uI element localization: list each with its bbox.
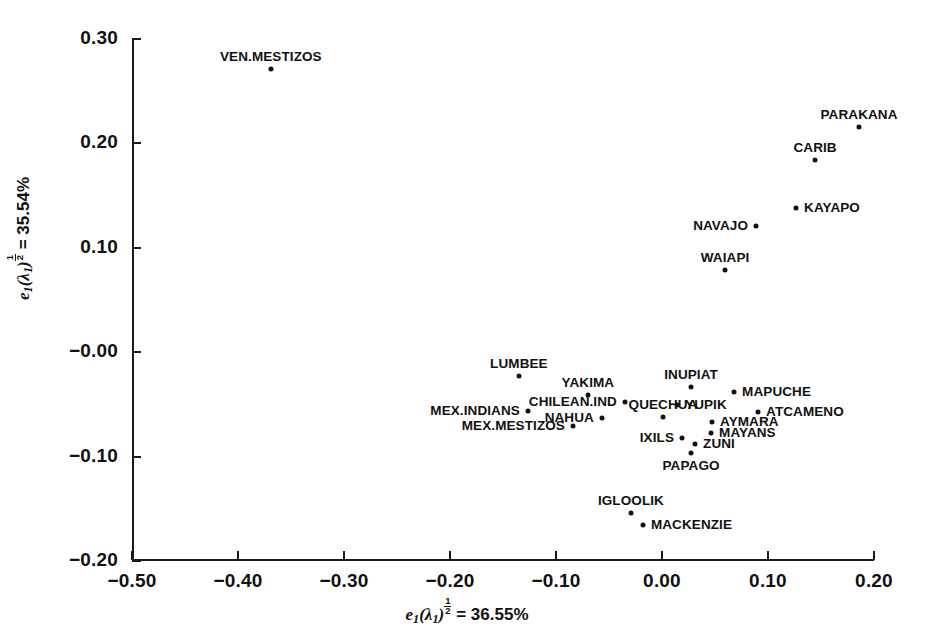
y-tick-mark — [132, 247, 141, 249]
x-tick-mark — [449, 551, 451, 560]
y-tick-mark — [132, 456, 141, 458]
x-tick-label: −0.50 — [107, 570, 156, 592]
data-point[interactable] — [813, 158, 818, 163]
x-tick-label: 0.20 — [855, 570, 893, 592]
data-point-label: VEN.MESTIZOS — [220, 50, 322, 64]
data-point[interactable] — [268, 67, 273, 72]
data-point[interactable] — [710, 420, 715, 425]
data-point[interactable] — [693, 442, 698, 447]
data-point-label: YAKIMA — [562, 376, 615, 390]
x-tick-mark — [661, 551, 663, 560]
y-tick-label: 0.20 — [80, 131, 118, 153]
data-point-label: ZUNI — [703, 437, 735, 451]
data-point[interactable] — [723, 267, 728, 272]
data-point[interactable] — [754, 223, 759, 228]
data-point[interactable] — [525, 409, 530, 414]
data-point[interactable] — [599, 416, 604, 421]
data-point[interactable] — [640, 522, 645, 527]
x-tick-label: −0.30 — [319, 570, 368, 592]
data-point-label: IGLOOLIK — [598, 493, 664, 507]
data-point-label: LUMBEE — [490, 357, 548, 371]
data-point-label: PARAKANA — [821, 108, 898, 122]
data-point-label: MEX.INDIANS — [430, 404, 520, 418]
data-point-label: WAIAPI — [701, 250, 750, 264]
y-tick-label: 0.10 — [80, 236, 118, 258]
x-axis-percent: = 36.55% — [456, 605, 528, 624]
data-point[interactable] — [689, 450, 694, 455]
x-tick-label: −0.10 — [531, 570, 580, 592]
data-point-label: MACKENZIE — [651, 518, 732, 532]
x-tick-mark — [873, 551, 875, 560]
x-tick-mark — [767, 551, 769, 560]
data-point[interactable] — [709, 431, 714, 436]
y-tick-mark — [132, 142, 141, 144]
data-point-label: IXILS — [640, 431, 674, 445]
data-point[interactable] — [794, 205, 799, 210]
x-tick-label: −0.20 — [425, 570, 474, 592]
x-tick-label: 0.00 — [643, 570, 681, 592]
data-point-label: QUECHUA — [629, 398, 698, 412]
x-tick-mark — [555, 551, 557, 560]
data-point-label: NAVAJO — [693, 219, 748, 233]
x-tick-mark — [343, 551, 345, 560]
x-tick-mark — [131, 551, 133, 560]
data-point-label: CARIB — [793, 141, 836, 155]
y-tick-mark — [132, 38, 141, 40]
y-tick-label: −0.20 — [69, 549, 118, 571]
x-axis-title: e1(λ1)12 = 36.55% — [0, 597, 934, 627]
data-point[interactable] — [628, 510, 633, 515]
y-axis-line — [132, 39, 134, 561]
data-point-label: MEX.MESTIZOS — [462, 419, 565, 433]
data-point-label: PAPAGO — [662, 459, 719, 473]
x-axis-line — [132, 559, 874, 561]
y-tick-label: −0.10 — [69, 445, 118, 467]
data-point[interactable] — [661, 415, 666, 420]
data-point-label: CHILEAN.IND — [529, 395, 617, 409]
data-point[interactable] — [516, 374, 521, 379]
data-point-label: INUPIAT — [664, 368, 718, 382]
data-point[interactable] — [689, 385, 694, 390]
x-tick-label: −0.40 — [213, 570, 262, 592]
y-axis-percent: = 35.54% — [14, 177, 33, 249]
data-point-label: MAPUCHE — [742, 385, 811, 399]
data-point-label: KAYAPO — [804, 201, 860, 215]
y-tick-label: −0.00 — [69, 340, 118, 362]
x-tick-mark — [237, 551, 239, 560]
y-tick-mark — [132, 560, 141, 562]
data-point[interactable] — [732, 390, 737, 395]
data-point[interactable] — [680, 436, 685, 441]
data-point[interactable] — [857, 125, 862, 130]
y-tick-mark — [132, 351, 141, 353]
plot-area: 0.300.200.10−0.00−0.10−0.20−0.50−0.40−0.… — [132, 39, 874, 561]
x-tick-label: 0.10 — [749, 570, 787, 592]
y-tick-label: 0.30 — [80, 27, 118, 49]
data-point[interactable] — [570, 424, 575, 429]
y-axis-title: e1(λ1)12 = 35.54% — [6, 177, 36, 300]
scatter-plot-figure: e1(λ1)12 = 35.54% e1(λ1)12 = 36.55% 0.30… — [0, 0, 934, 644]
data-point[interactable] — [622, 400, 627, 405]
